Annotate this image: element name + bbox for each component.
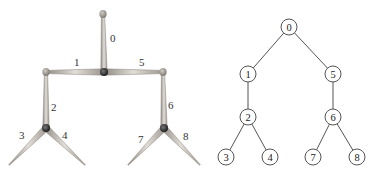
- node-label: 7: [310, 152, 315, 163]
- node-label: 0: [286, 22, 291, 33]
- node-label: 3: [223, 152, 228, 163]
- end-knob: [159, 68, 166, 76]
- node-label: 8: [354, 152, 359, 163]
- bone-label: 0: [110, 32, 116, 44]
- end-knob: [99, 10, 106, 18]
- bone-label: 4: [62, 129, 68, 141]
- end-knob: [42, 68, 49, 76]
- bone-label: 7: [138, 133, 144, 145]
- bone-0: [101, 14, 107, 72]
- tree-node: 4: [262, 149, 278, 165]
- tree-edge: [289, 27, 333, 74]
- bone-2: [43, 72, 49, 128]
- tree-node: 5: [325, 66, 341, 82]
- bone-3: [9, 126, 49, 166]
- bone-label: 8: [183, 130, 189, 142]
- tree-node: 0: [281, 19, 297, 35]
- node-label: 4: [267, 152, 273, 163]
- bone-label: 2: [51, 101, 57, 113]
- skeleton-rendering: 015263478: [9, 10, 201, 165]
- bone-label: 6: [168, 99, 174, 111]
- bone-6: [161, 72, 167, 128]
- bone-8: [162, 126, 201, 166]
- tree-node: 6: [325, 109, 341, 125]
- bone-label: 1: [74, 56, 80, 68]
- joint-sphere: [42, 124, 50, 132]
- joint-sphere: [100, 68, 108, 76]
- tree-node: 3: [218, 149, 234, 165]
- node-label: 2: [245, 112, 250, 123]
- bone-7: [128, 126, 167, 166]
- skeleton-tree-diagram: 015263478 015263478: [0, 0, 377, 177]
- tree-node: 8: [349, 149, 365, 165]
- bone-5: [104, 69, 163, 75]
- tree-node: 2: [240, 109, 256, 125]
- node-label: 5: [330, 69, 335, 80]
- bone-label: 3: [19, 129, 25, 141]
- node-label: 1: [245, 69, 250, 80]
- bone-1: [46, 69, 104, 75]
- bone-label: 5: [139, 56, 145, 68]
- tree-graph: 015263478: [218, 19, 365, 165]
- tree-node: 1: [240, 66, 256, 82]
- joint-sphere: [160, 124, 168, 132]
- tree-node: 7: [305, 149, 321, 165]
- tree-edge: [248, 27, 289, 74]
- node-label: 6: [330, 112, 335, 123]
